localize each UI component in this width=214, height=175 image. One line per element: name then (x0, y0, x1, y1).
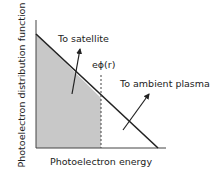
arrow-to-plasma (123, 94, 149, 130)
arrow-plasma-label: To ambient plasma (119, 78, 210, 89)
arrow-satellite-label: To satellite (57, 33, 109, 44)
y-axis-label: Photoelectron distribution function (16, 3, 27, 168)
shaded-region (36, 34, 101, 148)
diagram-canvas: To satellite eϕ(r) To ambient plasma Pho… (0, 0, 214, 175)
x-axis-label: Photoelectron energy (50, 156, 152, 167)
potential-label: eϕ(r) (92, 59, 115, 70)
